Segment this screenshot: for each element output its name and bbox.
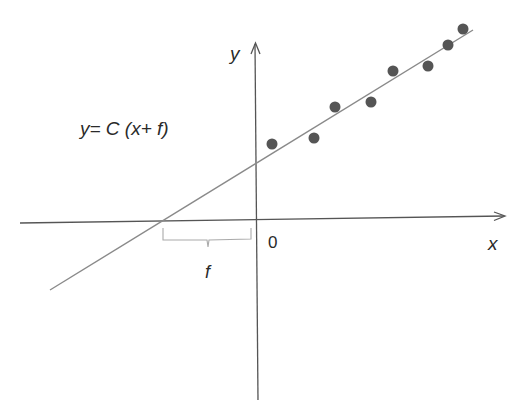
fit-line (50, 30, 473, 290)
data-point (443, 40, 454, 51)
equation-label: y= C (x+ f) (78, 118, 169, 139)
y-axis (255, 44, 258, 400)
data-point (458, 24, 469, 35)
f-brace (163, 228, 251, 247)
y-axis-label: y (228, 43, 241, 64)
data-point (423, 61, 434, 72)
x-axis-label: x (487, 233, 499, 254)
data-point (309, 133, 320, 144)
f-label: f (205, 262, 212, 282)
data-points (267, 24, 469, 150)
linear-fit-diagram: y x 0 f y= C (x+ f) (0, 0, 532, 417)
data-point (267, 139, 278, 150)
data-point (388, 66, 399, 77)
data-point (330, 102, 341, 113)
origin-label: 0 (268, 233, 277, 252)
x-axis (20, 216, 504, 223)
data-point (366, 97, 377, 108)
